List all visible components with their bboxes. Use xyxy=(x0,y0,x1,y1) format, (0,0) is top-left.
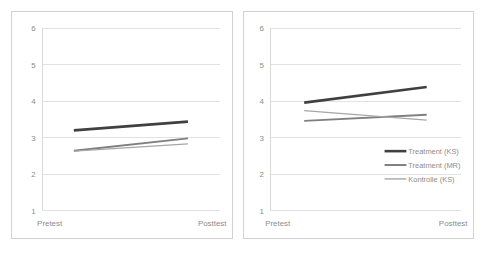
x-tick-labels-left: PretestPosttest xyxy=(37,219,227,228)
y-tick-label: 6 xyxy=(31,24,36,33)
chart-panel-left: 654321 PretestPosttest xyxy=(11,11,233,239)
y-tick-label: 3 xyxy=(31,134,36,143)
y-tick-label: 2 xyxy=(31,170,35,179)
y-tick-labels-left: 654321 xyxy=(31,24,36,215)
y-tick-label: 1 xyxy=(259,207,264,216)
x-tick-label: Posttest xyxy=(439,219,468,228)
x-tick-label: Posttest xyxy=(198,219,227,228)
line-chart-left: 654321 PretestPosttest xyxy=(12,12,232,238)
x-tick-label: Pretest xyxy=(37,219,63,228)
legend-right: Treatment (KS)Treatment (MR)Kontrolle (K… xyxy=(385,147,461,184)
legend-label: Treatment (MR) xyxy=(408,161,461,170)
x-tick-label: Pretest xyxy=(265,219,291,228)
y-tick-label: 4 xyxy=(259,97,264,106)
legend-label: Kontrolle (KS) xyxy=(408,175,455,184)
y-tick-labels-right: 654321 xyxy=(259,24,264,215)
series-line xyxy=(74,122,188,131)
figure-root: 654321 PretestPosttest 654321 PretestPos… xyxy=(0,0,485,253)
y-tick-label: 1 xyxy=(31,207,36,216)
y-tick-label: 5 xyxy=(31,61,36,70)
y-tick-label: 3 xyxy=(259,134,264,143)
y-tick-label: 4 xyxy=(31,97,36,106)
x-tick-labels-right: PretestPosttest xyxy=(265,219,468,228)
line-chart-right: 654321 PretestPosttest Treatment (KS)Tre… xyxy=(244,12,473,238)
y-tick-label: 5 xyxy=(259,61,264,70)
chart-panel-right: 654321 PretestPosttest Treatment (KS)Tre… xyxy=(243,11,474,239)
series-lines-right xyxy=(304,87,426,121)
legend-label: Treatment (KS) xyxy=(408,147,459,156)
series-lines-left xyxy=(74,122,188,152)
series-line xyxy=(304,87,426,103)
y-tick-label: 2 xyxy=(259,170,263,179)
gridlines-left xyxy=(42,28,220,211)
y-tick-label: 6 xyxy=(259,24,264,33)
